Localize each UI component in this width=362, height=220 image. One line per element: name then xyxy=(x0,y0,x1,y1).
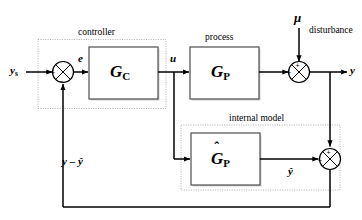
sign-model-error-junction-output-plus: + xyxy=(327,149,331,156)
block-subscript-gp-hat: P xyxy=(223,157,230,169)
block-label-process: GP xyxy=(211,62,230,82)
sign-model-error-junction-model-minus: – xyxy=(318,156,322,163)
block-diagram-canvas: + – + + – + controller process internal … xyxy=(0,0,362,220)
block-label-internal-model: ˆGP xyxy=(211,149,230,169)
block-glyph-gp: G xyxy=(211,62,223,81)
setpoint-subscript: s xyxy=(15,69,18,78)
signal-label-setpoint: ys xyxy=(10,64,18,78)
block-glyph-gp-hat-wrap: ˆG xyxy=(211,149,223,169)
sign-disturbance-junction-process-plus: + xyxy=(287,69,291,76)
signal-label-error: e xyxy=(78,52,83,64)
hat-accent-icon: ˆ xyxy=(214,140,219,155)
signal-label-feedback: y – ŷ xyxy=(62,155,83,167)
group-label-process: process xyxy=(205,32,234,42)
group-label-controller: controller xyxy=(78,27,115,37)
block-label-controller: GC xyxy=(110,62,130,82)
signal-label-output: y xyxy=(350,64,355,76)
block-subscript-gc: C xyxy=(122,70,130,82)
block-subscript-gp: P xyxy=(223,70,230,82)
diagram-vector-layer xyxy=(0,0,362,220)
sign-error-junction-setpoint-plus: + xyxy=(51,69,55,76)
block-glyph-gc: G xyxy=(110,62,122,81)
sign-disturbance-junction-disturbance-plus: + xyxy=(296,62,300,69)
signal-label-disturbance-text: disturbance xyxy=(309,25,353,35)
signal-label-model-output: ŷ xyxy=(288,165,293,177)
signal-label-disturbance-symbol: μ xyxy=(294,10,301,26)
group-label-internal-model: internal model xyxy=(229,113,284,123)
sign-error-junction-feedback-minus: – xyxy=(60,77,64,84)
signal-label-control: u xyxy=(170,52,176,64)
